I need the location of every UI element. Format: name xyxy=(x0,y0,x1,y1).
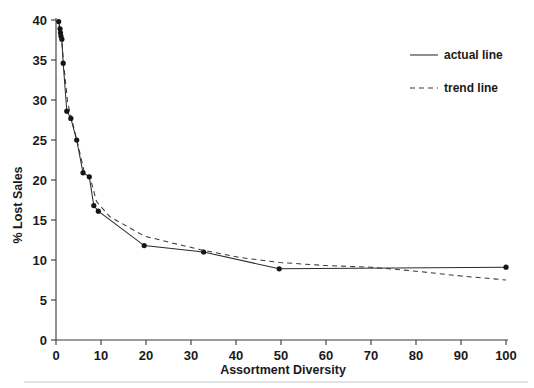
y-tick-label: 5 xyxy=(40,293,47,308)
x-tick-label: 90 xyxy=(454,348,468,363)
y-tick-label: 10 xyxy=(33,253,47,268)
y-tick-label: 15 xyxy=(33,213,47,228)
data-point-marker xyxy=(277,266,282,271)
x-tick-label: 50 xyxy=(274,348,288,363)
data-point-marker xyxy=(61,61,66,66)
data-point-marker xyxy=(59,37,64,42)
data-point-marker xyxy=(87,174,92,179)
x-tick-label: 100 xyxy=(495,348,517,363)
y-tick-label: 0 xyxy=(40,333,47,348)
chart-figure: 0510152025303540 0102030405060708090100 … xyxy=(0,0,534,388)
y-tick-label: 30 xyxy=(33,93,47,108)
data-point-marker xyxy=(142,243,147,248)
data-point-marker xyxy=(503,265,508,270)
data-point-marker xyxy=(96,209,101,214)
data-point-marker xyxy=(201,249,206,254)
data-point-marker xyxy=(68,116,73,121)
legend-label-actual: actual line xyxy=(444,48,503,62)
y-tick-label: 35 xyxy=(33,53,47,68)
data-point-marker xyxy=(74,137,79,142)
data-point-marker xyxy=(56,19,61,24)
x-tick-label: 30 xyxy=(184,348,198,363)
x-axis-title: Assortment Diversity xyxy=(220,363,346,377)
y-axis-title: % Lost Sales xyxy=(11,166,25,243)
x-tick-label: 80 xyxy=(409,348,423,363)
x-tick-label: 70 xyxy=(364,348,378,363)
x-tick-label: 20 xyxy=(139,348,153,363)
y-tick-label: 40 xyxy=(33,13,47,28)
data-point-marker xyxy=(80,170,85,175)
x-tick-label: 0 xyxy=(52,348,59,363)
data-point-marker xyxy=(91,203,96,208)
line-chart: 0510152025303540 0102030405060708090100 … xyxy=(0,0,534,388)
x-tick-label: 40 xyxy=(229,348,243,363)
data-point-marker xyxy=(64,109,69,114)
x-tick-label: 60 xyxy=(319,348,333,363)
legend-label-trend: trend line xyxy=(444,81,498,95)
x-tick-label: 10 xyxy=(94,348,108,363)
y-tick-label: 20 xyxy=(33,173,47,188)
y-tick-label: 25 xyxy=(33,133,47,148)
